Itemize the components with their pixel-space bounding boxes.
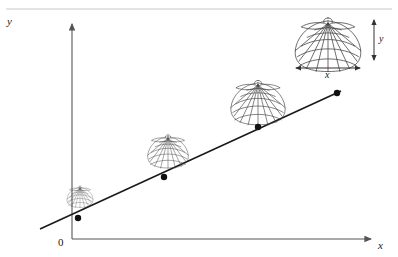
y-dimension-label: y	[379, 33, 383, 44]
regression-line	[40, 91, 341, 229]
shell-medium	[231, 80, 285, 124]
figure-canvas: y x 0 y x	[0, 0, 398, 257]
x-dimension-label: x	[325, 69, 329, 80]
shell-largest	[295, 18, 361, 72]
data-point	[255, 124, 261, 130]
data-point	[334, 90, 340, 96]
origin-label: 0	[58, 236, 64, 248]
x-axis-label: x	[378, 239, 383, 251]
scallop-regression-figure	[0, 0, 398, 257]
y-axis-label: y	[7, 15, 12, 27]
data-point	[75, 215, 81, 221]
data-point	[161, 174, 167, 180]
shell-smallest	[67, 186, 93, 207]
